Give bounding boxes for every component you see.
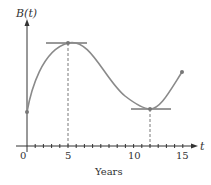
y-axis-arrow-icon <box>25 19 30 26</box>
y-axis-label: B(t) <box>15 7 37 20</box>
tick-label-15: 15 <box>176 150 189 161</box>
max-point <box>66 41 70 45</box>
end-point <box>180 70 184 74</box>
x-axis-var-label: t <box>200 140 205 153</box>
tick-label-0: 0 <box>20 150 26 161</box>
start-point <box>25 110 29 114</box>
curve-b-of-t <box>27 42 182 112</box>
x-axis-arrow-icon <box>191 144 198 149</box>
x-axis-title: Years <box>94 166 123 177</box>
chart: B(t) t 0 5 10 15 Years <box>0 0 211 185</box>
min-point <box>148 107 152 111</box>
tick-label-10: 10 <box>128 150 141 161</box>
tick-label-5: 5 <box>65 150 71 161</box>
